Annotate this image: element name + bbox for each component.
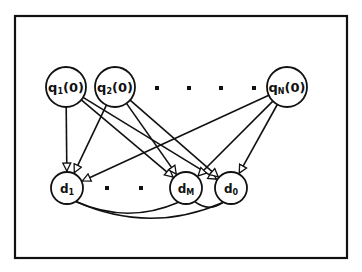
edge-qN-d1 bbox=[82, 95, 268, 181]
node-label: q1(0) bbox=[48, 80, 84, 96]
ellipsis-dot bbox=[139, 186, 143, 190]
ellipsis-dot bbox=[187, 86, 191, 90]
node-q1: q1(0) bbox=[46, 67, 86, 107]
edge-q1-dM bbox=[81, 100, 173, 177]
edge-q1-d0 bbox=[83, 97, 216, 179]
edge-group bbox=[66, 95, 277, 181]
diagram-canvas: q1(0)q2(0)qN(0)d1dMd0 bbox=[0, 0, 362, 272]
node-d1: d1 bbox=[51, 172, 83, 204]
node-label: qN(0) bbox=[269, 80, 306, 96]
arc-group bbox=[76, 202, 223, 219]
ellipsis-dot bbox=[252, 86, 256, 90]
node-group: q1(0)q2(0)qN(0)d1dMd0 bbox=[46, 67, 307, 204]
arc-d1-d0 bbox=[76, 202, 223, 219]
edge-q1-d1 bbox=[66, 107, 67, 171]
ellipsis-dot bbox=[219, 86, 223, 90]
diagram-frame bbox=[15, 16, 347, 258]
node-qN: qN(0) bbox=[267, 67, 307, 107]
edge-q2-d1 bbox=[74, 105, 106, 173]
node-q2: q2(0) bbox=[95, 67, 135, 107]
node-d0: d0 bbox=[215, 172, 247, 204]
ellipsis-dot bbox=[155, 86, 159, 90]
ellipsis-dot bbox=[105, 186, 109, 190]
arc-dM-d0 bbox=[195, 202, 223, 208]
edge-q2-dM bbox=[127, 103, 177, 174]
edge-qN-dM bbox=[198, 101, 273, 176]
node-dM: dM bbox=[170, 172, 202, 204]
node-label: q2(0) bbox=[97, 80, 133, 96]
